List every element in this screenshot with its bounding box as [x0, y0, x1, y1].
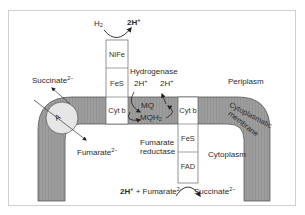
fumarate-reductase-name: Fumaratereductase [140, 138, 174, 156]
succinate-export-label: Succinate2− [32, 76, 73, 85]
periplasm-label: Periplasm [228, 77, 264, 86]
hydrogenase-name: Hydrogenase [130, 67, 178, 76]
proton-left-label: 2H+ [134, 79, 147, 88]
succinate-product-label: Succinate2− [194, 187, 235, 196]
fumarate-reduction-reaction: 2H+ + Fumarate2− [120, 187, 183, 196]
fad-subunit: FAD [178, 162, 198, 171]
cytb-subunit-fumarate-reductase: Cyt b [175, 106, 201, 115]
cytoplasm-label: Cytoplasm [208, 150, 246, 159]
cytb-subunit-hydrogenase: Cyt b [104, 106, 130, 115]
menaquinone-label: MQ [141, 101, 154, 110]
antiporter-circle [46, 102, 78, 134]
fumarate-import-label: Fumarate2− [77, 148, 118, 157]
nife-subunit: NiFe [106, 50, 128, 59]
fes-subunit-hydrogenase: FeS [106, 79, 128, 88]
fes-subunit-fumarate-reductase: FeS [178, 134, 198, 143]
menaquinol-label: MQH2 [140, 113, 162, 122]
hydrogenase-product-label: 2H+ [127, 18, 140, 27]
h2-oxidation-arrow [104, 28, 131, 38]
proton-right-label: 2H+ [160, 79, 173, 88]
h2-label: H2 [94, 19, 103, 28]
